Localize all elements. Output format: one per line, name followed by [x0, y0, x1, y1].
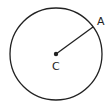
center-label: C	[52, 60, 60, 73]
point-a-label: A	[97, 15, 105, 28]
center-point	[54, 52, 58, 56]
diagram-canvas: C A	[0, 0, 111, 106]
radius-segment	[56, 27, 93, 54]
circle-diagram: C A	[0, 0, 111, 106]
